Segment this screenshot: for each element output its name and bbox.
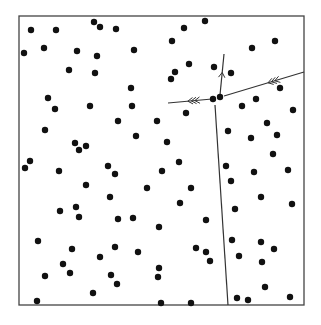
site-point (203, 217, 209, 223)
site-point (156, 224, 162, 230)
site-point (228, 70, 234, 76)
site-point (52, 106, 58, 112)
site-point (94, 53, 100, 59)
site-point (245, 297, 251, 303)
site-point (34, 298, 40, 304)
site-point (249, 45, 255, 51)
site-point (159, 168, 165, 174)
site-point (72, 140, 78, 146)
site-point (144, 185, 150, 191)
site-point (154, 118, 160, 124)
site-point (128, 85, 134, 91)
site-point (74, 48, 80, 54)
site-point (290, 107, 296, 113)
site-point (186, 61, 192, 67)
site-point (277, 85, 283, 91)
site-point (289, 201, 295, 207)
site-point (270, 151, 276, 157)
site-point (56, 168, 62, 174)
site-point (228, 178, 234, 184)
site-point (115, 216, 121, 222)
site-point (203, 249, 209, 255)
site-point (169, 38, 175, 44)
site-point (114, 281, 120, 287)
site-point (112, 244, 118, 250)
site-point (264, 120, 270, 126)
site-point (90, 290, 96, 296)
site-point (92, 70, 98, 76)
site-point (258, 194, 264, 200)
site-point (97, 254, 103, 260)
site-point (67, 270, 73, 276)
site-point (287, 294, 293, 300)
site-point (76, 214, 82, 220)
site-point (272, 38, 278, 44)
site-point (107, 194, 113, 200)
site-point (73, 204, 79, 210)
site-point (239, 103, 245, 109)
site-point (115, 118, 121, 124)
site-point (262, 284, 268, 290)
site-point (87, 103, 93, 109)
site-point (183, 110, 189, 116)
site-point (21, 50, 27, 56)
site-point (172, 69, 178, 75)
site-point (251, 169, 257, 175)
site-point (53, 27, 59, 33)
site-point (271, 246, 277, 252)
site-point (42, 127, 48, 133)
site-point (35, 238, 41, 244)
site-point (248, 135, 254, 141)
site-point (133, 133, 139, 139)
site-point (259, 259, 265, 265)
site-point (91, 19, 97, 25)
site-point (97, 24, 103, 30)
site-point (236, 253, 242, 259)
site-point (135, 249, 141, 255)
site-point (76, 147, 82, 153)
site-point (113, 26, 119, 32)
site-point (41, 45, 47, 51)
site-point (42, 273, 48, 279)
site-point (223, 163, 229, 169)
site-point (258, 239, 264, 245)
site-point (108, 272, 114, 278)
site-point (105, 163, 111, 169)
site-point (27, 158, 33, 164)
site-point (66, 67, 72, 73)
site-point (202, 18, 208, 24)
site-point (45, 95, 51, 101)
site-point (217, 94, 223, 100)
site-point (177, 200, 183, 206)
site-point (181, 25, 187, 31)
site-point (112, 171, 118, 177)
voronoi-diagram (0, 0, 321, 325)
site-point (232, 206, 238, 212)
site-point (155, 274, 161, 280)
site-point (210, 96, 216, 102)
site-point (83, 143, 89, 149)
site-point (211, 64, 217, 70)
site-point (234, 295, 240, 301)
site-point (229, 237, 235, 243)
site-point (83, 182, 89, 188)
site-point (207, 258, 213, 264)
site-point (131, 47, 137, 53)
site-point (158, 300, 164, 306)
site-point (176, 159, 182, 165)
site-point (285, 167, 291, 173)
site-point (164, 139, 170, 145)
site-point (188, 300, 194, 306)
site-point (69, 246, 75, 252)
site-point (60, 261, 66, 267)
site-point (156, 265, 162, 271)
site-point (129, 103, 135, 109)
site-point (188, 185, 194, 191)
site-point (274, 132, 280, 138)
site-point (22, 165, 28, 171)
site-point (57, 208, 63, 214)
site-point (168, 76, 174, 82)
site-point (225, 128, 231, 134)
site-point (193, 245, 199, 251)
site-point (253, 96, 259, 102)
